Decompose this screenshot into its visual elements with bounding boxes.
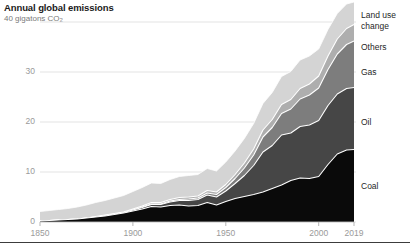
x-tick-label: 1850 — [31, 228, 50, 238]
y-tick-label: 10 — [13, 166, 35, 176]
y-tick-label: 30 — [13, 66, 35, 76]
x-tick-label: 1950 — [216, 228, 235, 238]
series-label-land-use-change-line2: change — [361, 21, 396, 32]
series-label-coal: Coal — [361, 181, 378, 192]
series-label-others: Others — [361, 42, 387, 53]
series-label-gas: Gas — [361, 67, 377, 78]
emissions-chart-figure: Annual global emissions 40 gigatons CO2 … — [0, 0, 410, 247]
y-tick-label: 0 — [13, 216, 35, 226]
y-tick-label: 20 — [13, 116, 35, 126]
series-label-land-use-change-line1: Land use — [361, 10, 396, 21]
series-label-land-use-change: Land use change — [361, 10, 396, 31]
stacked-area-plot — [0, 0, 410, 247]
x-tick-label: 1900 — [123, 228, 142, 238]
stacked-areas — [40, 2, 354, 222]
bottom-divider-rule — [0, 242, 410, 243]
series-label-oil: Oil — [361, 117, 371, 128]
x-tick-label: 2019 — [345, 228, 364, 238]
x-tick-label: 2000 — [309, 228, 328, 238]
